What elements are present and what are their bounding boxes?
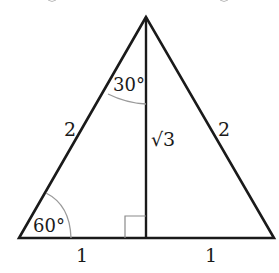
right-angle-mark bbox=[125, 216, 146, 238]
clipped-text-remnant bbox=[48, 0, 56, 2]
clipped-text-remnant bbox=[220, 0, 228, 2]
base-right-label: 1 bbox=[205, 244, 217, 266]
base-left-label: 1 bbox=[76, 244, 88, 266]
angle-label-30: 30° bbox=[113, 74, 145, 95]
right-side-label: 2 bbox=[218, 118, 230, 140]
altitude-label: √3 bbox=[151, 128, 175, 150]
left-side-label: 2 bbox=[64, 118, 76, 140]
angle-arc-30 bbox=[108, 94, 146, 104]
triangle-diagram: 30° √3 2 2 60° 1 1 bbox=[0, 0, 279, 273]
angle-label-60: 60° bbox=[33, 215, 65, 236]
